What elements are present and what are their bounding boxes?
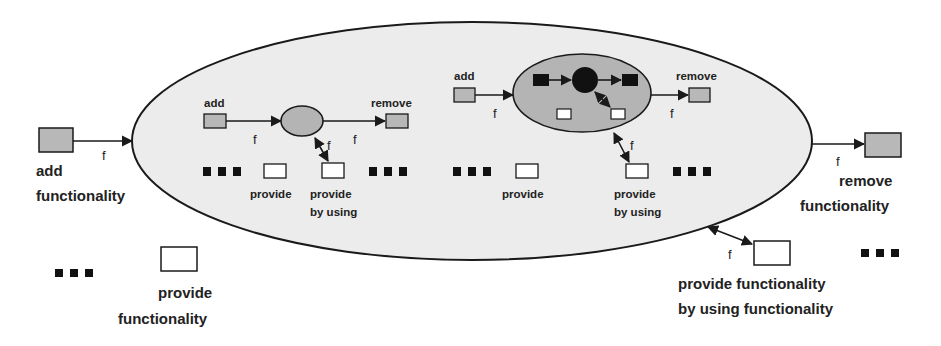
outer-use-arrow xyxy=(708,227,752,244)
right-provide-by-using-port xyxy=(626,164,648,178)
outer-provide-label-2: functionality xyxy=(118,310,208,327)
right-use-edge-label: f xyxy=(630,138,634,153)
left-use-label-2: by using xyxy=(310,206,357,218)
right-inner-core xyxy=(572,67,598,93)
outer-use-label-1: provide functionality xyxy=(678,275,826,292)
outer-remove-label-1: remove xyxy=(839,172,892,189)
right-add-port xyxy=(454,88,475,102)
right-ellipsis-2 xyxy=(673,167,711,176)
right-inner-provide xyxy=(557,109,571,119)
left-remove-edge-label: f xyxy=(353,132,357,147)
left-use-label-1: provide xyxy=(310,188,352,200)
left-component-node xyxy=(281,106,323,136)
outer-ellipsis-left xyxy=(55,269,93,277)
right-component-ellipse xyxy=(513,54,651,132)
left-ellipsis-1 xyxy=(203,167,241,176)
outer-provide-port xyxy=(161,247,197,271)
right-provide-label: provide xyxy=(502,188,544,200)
outer-provide-by-using-port xyxy=(754,241,790,265)
right-inner-out-port xyxy=(622,74,638,86)
right-inner-provide-by-using xyxy=(611,109,625,119)
right-inner-in-port xyxy=(533,74,549,86)
outer-use-label-2: by using functionality xyxy=(678,300,834,317)
outer-add-label-2: functionality xyxy=(36,187,126,204)
right-use-label-2: by using xyxy=(614,206,661,218)
left-remove-port xyxy=(386,114,408,128)
outer-add-label-1: add xyxy=(36,162,63,179)
outer-remove-port xyxy=(865,133,901,157)
functionality-diagram: f add functionality f remove functionali… xyxy=(0,0,941,346)
right-add-edge-label: f xyxy=(493,106,497,121)
outer-add-edge-label: f xyxy=(102,148,106,163)
outer-ellipsis-right xyxy=(861,249,899,257)
left-provide-label: provide xyxy=(250,188,292,200)
outer-remove-label-2: functionality xyxy=(800,197,890,214)
left-provide-port xyxy=(264,164,286,178)
right-remove-label: remove xyxy=(676,70,717,82)
left-add-port xyxy=(204,114,226,128)
right-add-label: add xyxy=(454,70,474,82)
right-remove-port xyxy=(689,88,710,102)
outer-remove-edge-label: f xyxy=(836,154,840,169)
right-use-label-1: provide xyxy=(614,188,656,200)
left-remove-label: remove xyxy=(371,97,412,109)
right-ellipsis-1 xyxy=(453,167,491,176)
left-use-edge-label: f xyxy=(327,138,331,153)
left-ellipsis-2 xyxy=(369,167,407,176)
outer-provide-label-1: provide xyxy=(158,284,212,301)
right-provide-port xyxy=(516,164,538,178)
left-add-label: add xyxy=(204,97,224,109)
left-provide-by-using-port xyxy=(322,163,344,178)
right-remove-edge-label: f xyxy=(670,106,674,121)
outer-add-port xyxy=(39,128,73,152)
outer-use-edge-label: f xyxy=(728,247,732,262)
outer-component-ellipse xyxy=(132,22,812,260)
left-add-edge-label: f xyxy=(253,132,257,147)
